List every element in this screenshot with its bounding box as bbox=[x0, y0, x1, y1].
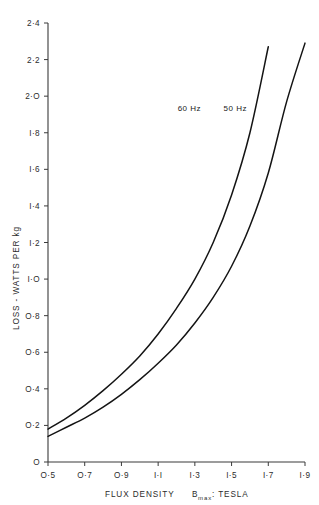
y-axis-tick-label: I·O bbox=[27, 275, 40, 284]
chart-figure: OO·2O·4O·6O·8I·OI·2I·4I·6I·82·O2·22·4 O·… bbox=[0, 0, 319, 505]
x-axis-tick-label: I·3 bbox=[189, 471, 200, 480]
x-axis-tick-label: I·5 bbox=[226, 471, 237, 480]
loss-vs-flux-density-chart: OO·2O·4O·6O·8I·OI·2I·4I·6I·82·O2·22·4 O·… bbox=[0, 0, 319, 505]
y-axis-tick-label: I·2 bbox=[29, 239, 40, 248]
y-axis-tick-label: 2·2 bbox=[27, 56, 40, 65]
x-axis-tick-label: I·I bbox=[154, 471, 162, 480]
x-axis-tick-label: I·9 bbox=[300, 471, 311, 480]
y-axis-tick-label: O·8 bbox=[25, 312, 40, 321]
y-axis-tick-label: O·2 bbox=[25, 421, 40, 430]
y-axis-tick-label: 2·4 bbox=[27, 19, 40, 28]
x-axis-tick-label: O·7 bbox=[77, 471, 92, 480]
x-axis-title-main: FLUX DENSITY bbox=[105, 490, 175, 499]
curve-label-50-hz: 50 Hz bbox=[224, 104, 247, 113]
x-axis-tick-label: O·9 bbox=[114, 471, 129, 480]
x-axis-tick-label: I·7 bbox=[263, 471, 274, 480]
y-axis-tick-label: O·4 bbox=[25, 385, 40, 394]
y-axis-tick-label: 2·O bbox=[25, 92, 40, 101]
y-axis-tick-label: O bbox=[33, 458, 40, 467]
y-axis-title: LOSS - WATTS PER kg bbox=[12, 226, 21, 330]
x-axis-title-subscript: max bbox=[198, 495, 212, 501]
y-axis-tick-label: I·4 bbox=[29, 202, 40, 211]
y-axis-tick-label: I·6 bbox=[29, 165, 40, 174]
curve-label-60-hz: 60 Hz bbox=[178, 104, 201, 113]
y-axis-tick-label: O·6 bbox=[25, 348, 40, 357]
x-axis-title-units: : TESLA bbox=[212, 490, 249, 499]
x-axis-tick-label: O·5 bbox=[41, 471, 56, 480]
y-axis-tick-label: I·8 bbox=[29, 129, 40, 138]
